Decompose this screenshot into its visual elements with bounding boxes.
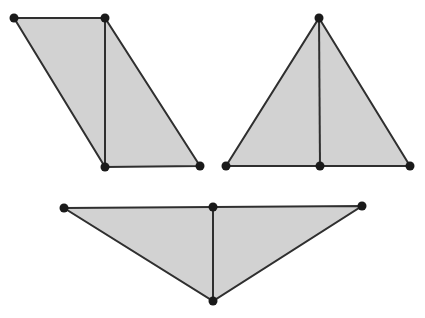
shape-upright-triangle xyxy=(222,14,415,171)
shape-upright-triangle-vertex-base-left xyxy=(222,162,231,171)
shape-upright-triangle-vertex-base-middle xyxy=(316,162,325,171)
geometry-figure xyxy=(0,0,425,318)
shape-parallelogram xyxy=(10,14,205,172)
shape-parallelogram-vertex-bottom-right xyxy=(196,162,205,171)
figure-canvas xyxy=(0,0,425,318)
shape-upright-triangle-vertex-base-right xyxy=(406,162,415,171)
shape-inverted-triangle xyxy=(60,202,367,306)
shape-upright-triangle-outline xyxy=(226,18,410,166)
shape-inverted-triangle-vertex-top-middle xyxy=(209,203,218,212)
shape-upright-triangle-divider xyxy=(319,18,320,166)
shape-inverted-triangle-vertex-top-right xyxy=(358,202,367,211)
shape-parallelogram-outline xyxy=(14,18,200,167)
shape-parallelogram-vertex-top-right xyxy=(101,14,110,23)
shape-parallelogram-vertex-bottom-left xyxy=(101,163,110,172)
shape-upright-triangle-vertex-apex xyxy=(315,14,324,23)
shape-inverted-triangle-vertex-top-left xyxy=(60,204,69,213)
shape-inverted-triangle-vertex-bottom-apex xyxy=(209,297,218,306)
shape-parallelogram-vertex-top-left xyxy=(10,14,19,23)
